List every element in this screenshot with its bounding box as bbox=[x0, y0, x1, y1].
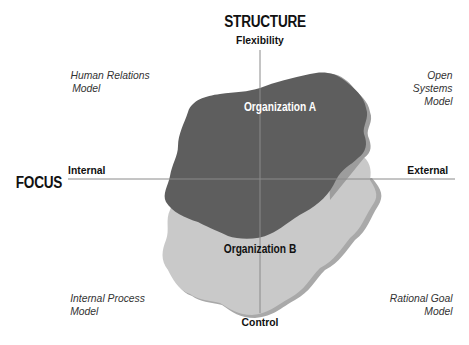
flexibility-label: Flexibility bbox=[229, 34, 292, 46]
structure-axis-title: STRUCTURE bbox=[224, 13, 295, 31]
open-systems-model-label: Open Systems Model bbox=[390, 69, 453, 108]
rational-goal-model-label: Rational Goal Model bbox=[390, 292, 453, 318]
external-label: External bbox=[407, 164, 448, 176]
organization-a-label: Organization A bbox=[233, 100, 327, 114]
focus-axis-title: FOCUS bbox=[16, 174, 59, 192]
internal-label: Internal bbox=[68, 164, 105, 176]
internal-process-model-label: Internal Process Model bbox=[70, 292, 145, 318]
organization-b-label: Organization B bbox=[213, 242, 307, 256]
control-label: Control bbox=[233, 316, 287, 328]
human-relations-model-label: Human Relations Model bbox=[70, 69, 149, 95]
